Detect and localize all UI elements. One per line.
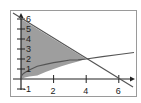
y-label-4: 4 (26, 34, 31, 44)
y-label-neg1: -1 (23, 84, 31, 94)
x-label-2: 2 (51, 86, 56, 96)
x-label-6: 6 (116, 86, 121, 96)
x-label-4: 4 (83, 86, 88, 96)
chart-plot: 2 4 6 6 5 4 3 2 1 -1 (0, 0, 141, 103)
x-axis-arrow-icon (130, 77, 135, 82)
y-label-1: 1 (26, 64, 31, 74)
y-label-5: 5 (26, 24, 31, 34)
y-label-3: 3 (26, 44, 31, 54)
y-label-2: 2 (26, 54, 31, 64)
y-label-6: 6 (26, 14, 31, 24)
